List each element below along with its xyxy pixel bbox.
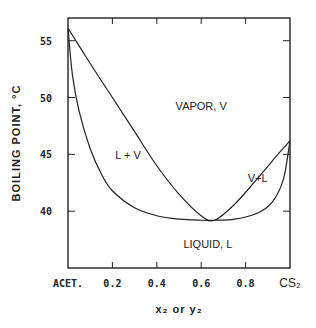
y-tick-label: 55 [40,36,52,47]
ticks: ACET.0.20.40.60.8CS₂40455055 [40,18,301,290]
curves [68,28,290,221]
region-label: L + V [115,149,141,161]
x-tick-label: 0.2 [103,278,121,289]
x-axis-title: x₂ or y₂ [155,303,202,315]
y-axis-title: BOILING POINT, °C [10,85,22,202]
y-tick-label: 50 [40,93,52,104]
region-label: V+L [248,172,268,184]
x-tick-label: 0.8 [237,278,255,289]
y-tick-label: 45 [40,149,52,160]
vapor-curve [68,28,290,221]
region-label: LIQUID, L [183,238,232,250]
liquid-curve [68,28,290,220]
x-tick-label: 0.6 [192,278,210,289]
labels: VAPOR, VL + VV+LLIQUID, Lx₂ or y₂BOILING… [10,85,268,315]
chart: ACET.0.20.40.60.8CS₂40455055 VAPOR, VL +… [0,0,316,328]
x-tick-label: CS₂ [279,276,301,290]
plot-frame [68,18,290,268]
x-tick-label: ACET. [53,278,83,289]
x-tick-label: 0.4 [148,278,166,289]
y-tick-label: 40 [40,206,52,217]
axes [68,18,290,268]
region-label: VAPOR, V [176,100,228,112]
